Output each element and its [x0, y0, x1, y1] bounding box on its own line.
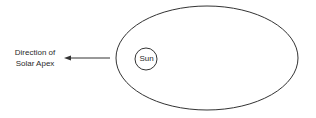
- apex-label-line1: Direction of: [6, 47, 64, 58]
- apex-label-line2: Solar Apex: [6, 58, 64, 69]
- sun-label: Sun: [135, 53, 158, 64]
- solar-apex-diagram: Direction of Solar Apex Sun: [0, 0, 316, 118]
- arrowhead-icon: [64, 56, 71, 61]
- solar-apex-label: Direction of Solar Apex: [6, 47, 64, 69]
